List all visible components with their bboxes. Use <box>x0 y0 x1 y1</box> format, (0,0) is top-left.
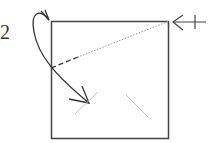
fold-line-dotted <box>78 22 168 58</box>
arrowhead-top-icon <box>41 10 49 20</box>
crease-mark-right <box>126 95 148 117</box>
fold-line-dashed <box>51 57 78 68</box>
curved-fold-arrow-icon <box>33 13 89 103</box>
paper-square <box>52 22 169 139</box>
origami-diagram: 2 <box>0 0 212 143</box>
diagram-canvas <box>0 0 212 143</box>
pivot-arrow-icon <box>173 15 206 30</box>
